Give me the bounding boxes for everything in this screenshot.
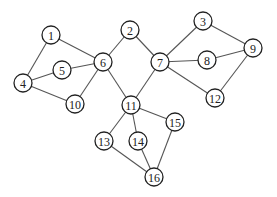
node-label: 7 [157, 56, 163, 70]
node-label: 6 [100, 56, 106, 70]
node-label: 15 [169, 116, 181, 130]
node-2: 2 [121, 21, 139, 39]
node-label: 11 [125, 99, 137, 113]
node-label: 13 [98, 135, 110, 149]
graph-diagram: 12345678910111213141516 [0, 0, 277, 197]
node-10: 10 [66, 95, 84, 113]
node-label: 3 [200, 15, 206, 29]
node-14: 14 [129, 132, 147, 150]
node-label: 16 [148, 171, 160, 185]
node-13: 13 [95, 132, 113, 150]
node-label: 9 [250, 42, 256, 56]
node-12: 12 [206, 89, 224, 107]
node-7: 7 [151, 53, 169, 71]
node-8: 8 [198, 51, 216, 69]
node-label: 14 [132, 135, 144, 149]
node-label: 8 [204, 54, 210, 68]
node-label: 2 [127, 24, 133, 38]
node-3: 3 [194, 12, 212, 30]
node-label: 12 [209, 92, 221, 106]
node-6: 6 [94, 53, 112, 71]
node-label: 4 [20, 77, 26, 91]
node-label: 10 [69, 98, 81, 112]
node-9: 9 [244, 39, 262, 57]
node-label: 1 [48, 29, 54, 43]
node-15: 15 [166, 113, 184, 131]
node-11: 11 [122, 96, 140, 114]
node-4: 4 [14, 74, 32, 92]
node-16: 16 [145, 168, 163, 186]
node-label: 5 [59, 64, 65, 78]
node-1: 1 [42, 26, 60, 44]
node-5: 5 [53, 61, 71, 79]
